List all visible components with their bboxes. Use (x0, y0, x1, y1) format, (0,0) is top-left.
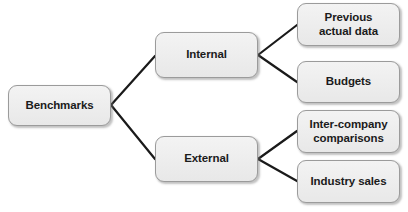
node-internal: Internal (155, 32, 258, 78)
edge-external-inter-company-comparisons (258, 131, 297, 159)
node-inter-company-comparisons-label: Inter-company comparisons (306, 118, 392, 145)
node-previous-actual-data-label: Previous actual data (315, 11, 382, 38)
edge-benchmarks-external (111, 105, 155, 159)
edge-benchmarks-internal (111, 56, 155, 105)
node-benchmarks-label: Benchmarks (21, 99, 97, 113)
node-inter-company-comparisons: Inter-company comparisons (297, 110, 400, 153)
edge-internal-previous-actual-data (258, 25, 297, 55)
node-internal-label: Internal (182, 48, 231, 62)
edge-internal-budgets (258, 55, 297, 82)
node-budgets: Budgets (297, 61, 400, 103)
node-previous-actual-data: Previous actual data (297, 3, 400, 46)
node-budgets-label: Budgets (322, 75, 375, 89)
benchmarks-diagram: Benchmarks Internal External Previous ac… (0, 0, 408, 212)
node-benchmarks: Benchmarks (8, 85, 111, 126)
node-external-label: External (180, 152, 233, 166)
node-industry-sales: Industry sales (297, 160, 400, 203)
node-external: External (155, 136, 258, 182)
node-industry-sales-label: Industry sales (307, 175, 391, 189)
edge-external-industry-sales (258, 159, 297, 181)
